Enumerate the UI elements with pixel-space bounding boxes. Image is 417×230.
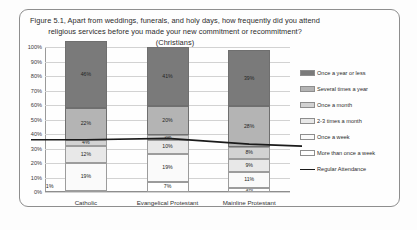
bar-segment[interactable]: 46% <box>65 41 107 108</box>
legend-item[interactable]: Once a week <box>300 129 396 145</box>
legend-item-label: Once a month <box>317 102 352 108</box>
bar-segment[interactable]: 20% <box>147 106 189 135</box>
medium-gray-swatch <box>300 86 315 92</box>
leader-line-label: 1% <box>46 183 54 189</box>
bar-segment-label: 10% <box>162 144 172 149</box>
bar-segment[interactable]: 9% <box>228 159 270 172</box>
bar-segment[interactable]: 19% <box>65 163 107 191</box>
light-gray-swatch <box>300 118 315 124</box>
bar-segment-label: 39% <box>244 76 254 81</box>
y-tick-label: 40% <box>31 131 42 137</box>
off-white-swatch <box>300 134 315 140</box>
bar-segment[interactable]: 12% <box>65 146 107 163</box>
stacked-bar[interactable]: 3%11%9%8%28%39% <box>228 47 270 192</box>
stacked-bar[interactable]: 1%19%12%4%22%46% <box>65 47 107 192</box>
bar-segment[interactable]: 28% <box>228 106 270 147</box>
bar-segment-label: 9% <box>245 163 253 168</box>
stacked-bar[interactable]: 7%19%10%3%20%41% <box>147 47 189 192</box>
bar-segment-label: 11% <box>244 177 254 182</box>
legend-item-label: 2-3 times a month <box>317 118 362 124</box>
plot-area: 0%10%20%30%40%50%60%70%80%90%100% 1%19%1… <box>45 47 290 192</box>
y-tick-label: 50% <box>31 117 42 123</box>
legend-item[interactable]: Several times a year <box>300 81 396 97</box>
y-tick-label: 90% <box>31 59 42 65</box>
legend-item-label: Regular Attendance <box>317 166 366 172</box>
category-label: Mainline Protestant <box>223 199 276 206</box>
category-label: Evangelical Protestant <box>137 199 199 206</box>
legend-item[interactable]: Regular Attendance <box>300 161 396 177</box>
bar-segment-label: 3% <box>245 188 253 192</box>
bar-segment-label: 19% <box>81 174 91 179</box>
bar-segment[interactable]: 22% <box>65 108 107 140</box>
legend-item-label: Several times a year <box>317 86 368 92</box>
bar-segment[interactable]: 8% <box>228 147 270 159</box>
dark-gray-swatch <box>300 70 315 76</box>
y-tick-label: 100% <box>28 44 42 50</box>
bar-segment-label: 4% <box>82 140 90 145</box>
legend-item[interactable]: Once a year or less <box>300 65 396 81</box>
bar-segment-label: 19% <box>162 165 172 170</box>
y-tick-label: 20% <box>31 160 42 166</box>
chart-legend: Once a year or lessSeveral times a yearO… <box>300 65 396 177</box>
bar-segment-label: 20% <box>162 118 172 123</box>
y-tick-label: 0% <box>34 189 42 195</box>
legend-item-label: Once a year or less <box>317 70 366 76</box>
bar-segment-label: 3% <box>164 135 172 139</box>
bar-segment[interactable]: 19% <box>147 154 189 182</box>
y-tick-label: 70% <box>31 88 42 94</box>
gray-swatch <box>300 102 315 108</box>
legend-item[interactable]: Once a month <box>300 97 396 113</box>
bar-segment[interactable]: 3% <box>147 135 189 139</box>
bar-segment[interactable]: 11% <box>228 172 270 188</box>
black-line-swatch <box>300 169 315 170</box>
y-tick-label: 60% <box>31 102 42 108</box>
bar-segment[interactable]: 3% <box>228 188 270 192</box>
gridline <box>45 192 290 193</box>
bar-segment-label: 46% <box>81 72 91 77</box>
white-swatch <box>300 150 315 156</box>
legend-item[interactable]: More than once a week <box>300 145 396 161</box>
bar-segment-label: 28% <box>244 124 254 129</box>
y-tick-label: 30% <box>31 146 42 152</box>
category-label: Catholic <box>75 199 97 206</box>
bar-segment-label: 12% <box>81 152 91 157</box>
bar-segment-label: 8% <box>245 150 253 155</box>
bar-segment-label: 7% <box>164 184 172 189</box>
bar-segment[interactable]: 7% <box>147 182 189 192</box>
bar-segment[interactable]: 41% <box>147 47 189 106</box>
y-tick-label: 80% <box>31 73 42 79</box>
bar-segment-label: 41% <box>162 74 172 79</box>
chart-page: Figure 5.1, Apart from weddings, funeral… <box>0 0 417 230</box>
bar-segment[interactable]: 10% <box>147 140 189 155</box>
bar-segment[interactable]: 4% <box>65 140 107 146</box>
legend-item-label: More than once a week <box>317 150 375 156</box>
bar-segment-label: 22% <box>81 121 91 126</box>
legend-item[interactable]: 2-3 times a month <box>300 113 396 129</box>
legend-item-label: Once a week <box>317 134 350 140</box>
y-tick-label: 10% <box>31 175 42 181</box>
bar-segment[interactable]: 39% <box>228 50 270 107</box>
